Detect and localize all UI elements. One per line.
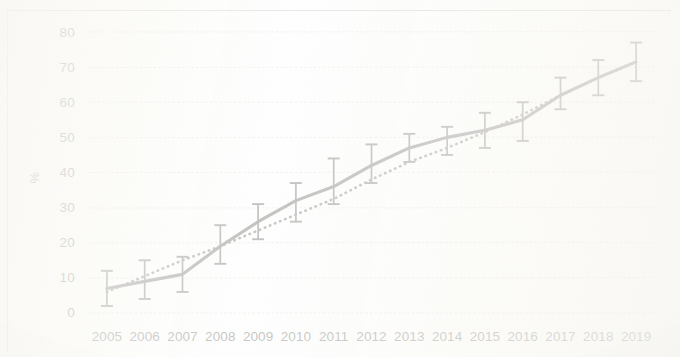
y-tick-label-60: 60 [40,95,75,110]
plot-area [0,0,680,357]
y-tick-label-20: 20 [40,235,75,250]
errorbars-group [101,43,642,306]
y-tick-label-10: 10 [40,270,75,285]
y-axis-title: % [27,164,42,184]
y-tick-label-30: 30 [40,200,75,215]
y-tick-label-0: 0 [40,305,75,320]
gridlines-group [88,32,657,313]
x-tick-label-2019: 2019 [614,329,658,344]
y-tick-label-80: 80 [40,25,75,40]
y-tick-label-40: 40 [40,165,75,180]
y-tick-label-50: 50 [40,130,75,145]
y-tick-label-70: 70 [40,60,75,75]
chart-figure: 80 70 60 50 40 30 20 10 0 % 200520062007… [0,0,680,357]
